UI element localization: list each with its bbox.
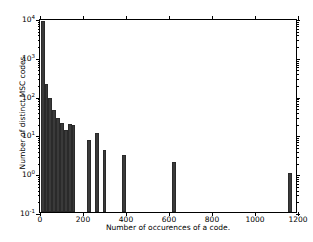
y-axis-minor-tick — [38, 106, 41, 107]
y-axis-minor-tick — [296, 109, 299, 110]
y-axis-minor-tick — [296, 22, 299, 23]
y-axis-minor-tick — [38, 191, 41, 192]
y-axis-minor-tick — [38, 181, 41, 182]
y-axis-minor-tick — [296, 61, 299, 62]
y-axis-minor-tick — [38, 70, 41, 71]
y-axis-minor-tick — [38, 63, 41, 64]
y-axis-minor-tick — [38, 145, 41, 146]
y-axis-minor-tick — [38, 74, 41, 75]
y-axis-minor-tick — [38, 79, 41, 80]
y-axis-minor-tick — [38, 164, 41, 165]
y-axis-minor-tick — [38, 177, 41, 178]
x-axis-tick-top — [212, 16, 213, 20]
y-axis-minor-tick — [296, 67, 299, 68]
y-axis-minor-tick — [296, 145, 299, 146]
y-axis-minor-tick — [38, 152, 41, 153]
y-axis-minor-tick — [296, 181, 299, 182]
y-axis-minor-tick — [296, 152, 299, 153]
y-axis-minor-tick — [296, 86, 299, 87]
y-axis-minor-tick — [296, 125, 299, 126]
y-axis-minor-tick — [38, 195, 41, 196]
y-axis-minor-tick — [296, 202, 299, 203]
y-axis-minor-tick — [38, 202, 41, 203]
y-axis-minor-tick — [38, 24, 41, 25]
y-axis-minor-tick — [38, 184, 41, 185]
y-axis-minor-tick — [38, 86, 41, 87]
y-axis-minor-tick — [296, 104, 299, 105]
x-axis-tick-top — [169, 16, 170, 20]
x-axis-tick-label: 1200 — [288, 216, 307, 224]
y-axis-minor-tick — [296, 99, 299, 100]
y-axis-minor-tick — [296, 101, 299, 102]
y-axis-minor-tick — [38, 29, 41, 30]
y-axis-minor-tick — [296, 164, 299, 165]
x-axis-tick-top — [40, 16, 41, 20]
y-axis-tick-label: 104 — [22, 16, 35, 24]
y-axis-minor-tick — [296, 142, 299, 143]
histogram-bar — [103, 150, 107, 212]
figure: Number of distinct MSC codes. 10-1100101… — [0, 0, 313, 242]
y-axis-minor-tick — [296, 47, 299, 48]
y-axis-minor-tick — [296, 35, 299, 36]
y-axis-minor-tick — [296, 32, 299, 33]
x-axis-tick-top — [83, 16, 84, 20]
y-axis-minor-tick — [296, 140, 299, 141]
y-axis-minor-tick — [296, 106, 299, 107]
y-axis-minor-tick — [296, 29, 299, 30]
y-axis-minor-tick — [296, 26, 299, 27]
y-axis-minor-tick — [296, 184, 299, 185]
y-axis-minor-tick — [296, 40, 299, 41]
y-axis-minor-tick — [38, 125, 41, 126]
y-axis-minor-tick — [38, 109, 41, 110]
y-axis-minor-tick — [296, 24, 299, 25]
y-axis-minor-tick — [38, 32, 41, 33]
x-axis-tick-label: 0 — [38, 216, 43, 224]
x-axis-tick-label: 200 — [76, 216, 90, 224]
y-axis-minor-tick — [296, 148, 299, 149]
x-axis-tick-top — [126, 16, 127, 20]
y-axis-minor-tick — [38, 148, 41, 149]
y-axis-minor-tick — [296, 179, 299, 180]
y-axis-minor-tick — [296, 138, 299, 139]
histogram-bar — [172, 162, 176, 212]
histogram-bar — [87, 140, 91, 212]
y-axis-minor-tick — [296, 187, 299, 188]
y-axis-minor-tick — [38, 138, 41, 139]
y-axis-minor-tick — [296, 157, 299, 158]
y-axis-minor-tick — [38, 140, 41, 141]
histogram-bar — [288, 173, 292, 212]
y-axis-minor-tick — [38, 47, 41, 48]
y-axis-minor-tick — [296, 74, 299, 75]
y-axis-minor-tick — [38, 104, 41, 105]
bars-container — [40, 20, 296, 212]
y-axis-minor-tick — [38, 40, 41, 41]
y-axis-minor-tick — [38, 35, 41, 36]
y-axis-minor-tick — [296, 191, 299, 192]
y-axis-minor-tick — [296, 195, 299, 196]
y-axis-minor-tick — [38, 22, 41, 23]
y-axis-minor-tick — [296, 65, 299, 66]
y-axis-minor-tick — [38, 118, 41, 119]
x-axis-label: Number of occurences of a code. — [39, 224, 297, 232]
y-axis-minor-tick — [38, 26, 41, 27]
histogram-bar — [72, 125, 76, 212]
y-axis-minor-tick — [296, 70, 299, 71]
y-axis-minor-tick — [38, 157, 41, 158]
x-axis-tick-top — [255, 16, 256, 20]
y-axis-minor-tick — [296, 63, 299, 64]
y-axis-tick-label: 100 — [22, 171, 35, 179]
y-axis-minor-tick — [296, 177, 299, 178]
y-axis-minor-tick — [38, 67, 41, 68]
y-axis-minor-tick — [38, 65, 41, 66]
y-axis-minor-tick — [38, 142, 41, 143]
y-axis-minor-tick — [38, 99, 41, 100]
histogram-bar — [122, 155, 126, 212]
plot-axes: 10-1100101102103104 02004006008001000120… — [39, 19, 297, 213]
y-axis-minor-tick — [296, 118, 299, 119]
y-axis-minor-tick — [38, 113, 41, 114]
histogram-bar — [95, 133, 99, 212]
y-axis-minor-tick — [38, 101, 41, 102]
x-axis-tick-top — [298, 16, 299, 20]
y-axis-tick-label: 10-1 — [20, 210, 35, 218]
y-axis-minor-tick — [38, 179, 41, 180]
